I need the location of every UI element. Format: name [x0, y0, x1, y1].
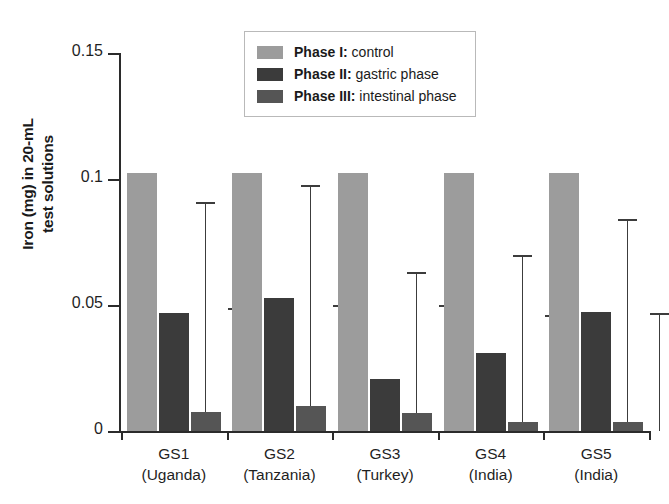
legend-item-phase3: Phase III: intestinal phase [257, 85, 457, 107]
bar-gs1-phase3 [191, 412, 221, 431]
legend-label-phase-name: Phase II: [294, 66, 352, 82]
error-bar-cap [407, 272, 426, 274]
x-axis-label-origin: (Uganda) [121, 465, 227, 486]
x-tick-mark [121, 431, 123, 440]
x-tick-mark [543, 431, 545, 440]
y-tick: 0.05 [0, 305, 119, 307]
y-tick: 0 [0, 431, 119, 433]
x-axis-label-gs3: GS3(Turkey) [332, 444, 438, 485]
error-bar-gs5-phase2 [627, 219, 628, 431]
x-axis-label-name: GS3 [332, 444, 438, 465]
x-axis-label-origin: (Tanzania) [227, 465, 333, 486]
bar-group-gs1 [121, 53, 227, 431]
x-axis-label-gs5: GS5(India) [543, 444, 649, 485]
error-bar-gs3-phase2 [416, 272, 417, 431]
bar-gs4-phase2 [476, 353, 506, 431]
x-axis-label-gs1: GS1(Uganda) [121, 444, 227, 485]
error-bar-cap [196, 202, 215, 204]
x-axis-label-origin: (Turkey) [332, 465, 438, 486]
error-bar-cap [513, 255, 532, 257]
x-tick-mark [649, 431, 651, 440]
bar-gs4-phase1 [444, 173, 474, 431]
x-axis-label-origin: (India) [438, 465, 544, 486]
legend-label-phase-name: Phase I: [294, 44, 348, 60]
x-axis-label-name: GS5 [543, 444, 649, 465]
chart-legend: Phase I: controlPhase II: gastric phaseP… [244, 31, 476, 117]
bar-gs5-phase3 [613, 422, 643, 431]
bar-group-gs5 [543, 53, 649, 431]
legend-label-phase-name: Phase III: [294, 88, 355, 104]
legend-label-phase2: Phase II: gastric phase [294, 66, 439, 82]
y-tick-label: 0 [0, 420, 119, 438]
y-tick-label: 0.1 [0, 168, 119, 186]
error-bar-cap [650, 313, 669, 315]
x-axis-label-gs2: GS2(Tanzania) [227, 444, 333, 485]
error-bar-gs2-phase2 [310, 185, 311, 431]
legend-swatch-phase3 [257, 90, 283, 103]
legend-item-phase1: Phase I: control [257, 41, 457, 63]
legend-swatch-phase1 [257, 46, 283, 59]
x-tick-mark [227, 431, 229, 440]
x-axis-label-origin: (India) [543, 465, 649, 486]
error-bar-cap [618, 219, 637, 221]
bar-gs3-phase1 [338, 173, 368, 431]
bar-gs5-phase2 [581, 312, 611, 431]
bar-gs2-phase2 [264, 298, 294, 431]
legend-label-phase-desc: control [348, 44, 394, 60]
bar-gs3-phase3 [402, 413, 432, 431]
x-axis-label-gs4: GS4(India) [438, 444, 544, 485]
y-tick: 0.15 [0, 53, 119, 55]
bar-gs2-phase1 [232, 173, 262, 431]
x-axis-label-name: GS2 [227, 444, 333, 465]
bar-gs2-phase3 [296, 406, 326, 431]
x-tick-mark [438, 431, 440, 440]
legend-item-phase2: Phase II: gastric phase [257, 63, 457, 85]
x-axis-label-name: GS1 [121, 444, 227, 465]
bar-gs5-phase1 [549, 173, 579, 431]
error-bar-gs1-phase2 [205, 202, 206, 431]
bar-gs1-phase2 [159, 313, 189, 431]
bar-gs4-phase3 [508, 422, 538, 431]
bar-gs1-phase1 [127, 173, 157, 431]
x-tick-mark [332, 431, 334, 440]
x-axis-line [119, 431, 649, 433]
legend-label-phase-desc: gastric phase [352, 66, 439, 82]
error-bar-gs5-phase3 [659, 313, 660, 431]
error-bar-gs4-phase2 [522, 255, 523, 431]
bar-gs3-phase2 [370, 379, 400, 431]
legend-swatch-phase2 [257, 68, 283, 81]
y-tick: 0.1 [0, 179, 119, 181]
y-tick-label: 0.15 [0, 42, 119, 60]
legend-label-phase-desc: intestinal phase [355, 88, 456, 104]
y-tick-label: 0.05 [0, 294, 119, 312]
x-axis-label-name: GS4 [438, 444, 544, 465]
legend-label-phase1: Phase I: control [294, 44, 394, 60]
error-bar-cap [301, 185, 320, 187]
legend-label-phase3: Phase III: intestinal phase [294, 88, 457, 104]
